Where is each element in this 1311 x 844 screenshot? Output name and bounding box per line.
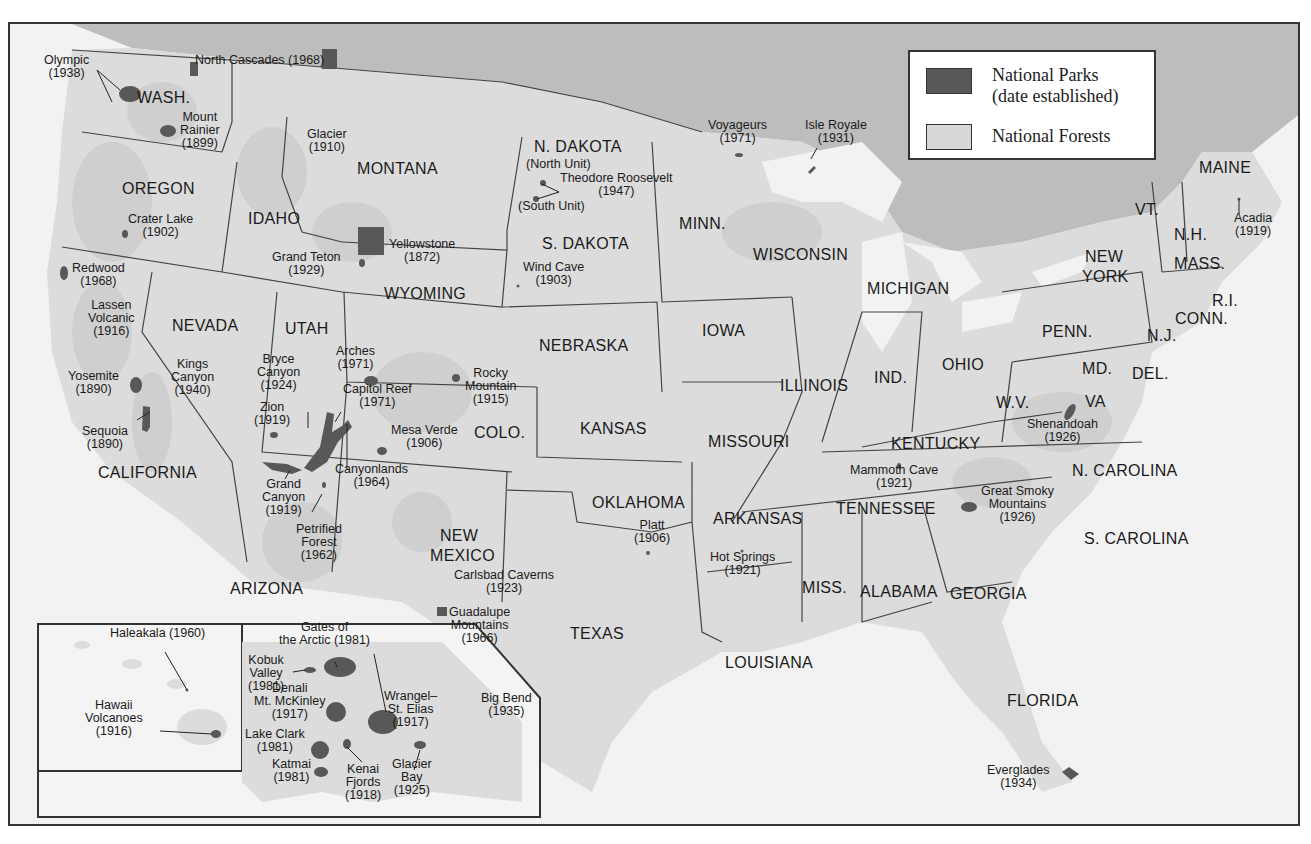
park-label: Arches(1971) (336, 345, 375, 371)
park-label: Theodore Roosevelt(1947) (560, 172, 673, 198)
state-label: VT. (1135, 202, 1159, 219)
state-label: OKLAHOMA (592, 495, 685, 512)
park-label: Katmai(1981) (272, 758, 311, 784)
state-label: S. CAROLINA (1084, 531, 1189, 548)
park-label: Yellowstone(1872) (389, 238, 455, 264)
state-label: MONTANA (357, 161, 438, 178)
state-label: MAINE (1199, 160, 1251, 177)
state-label: NEW (1085, 249, 1123, 266)
park-label: LassenVolcanic(1916) (88, 299, 135, 338)
map-frame: National Parks (date established) Nation… (8, 22, 1300, 826)
state-label: N. CAROLINA (1072, 463, 1178, 480)
state-label: NEVADA (172, 318, 238, 335)
park-label: Big Bend(1935) (481, 692, 532, 718)
park-label: Zion(1919) (254, 401, 290, 427)
park-label: Olympic(1938) (44, 54, 89, 80)
park-label: Mesa Verde(1906) (391, 424, 458, 450)
state-label: KENTUCKY (891, 436, 981, 453)
park-label: Redwood(1968) (72, 262, 125, 288)
park-label: Hot Springs(1921) (710, 551, 775, 577)
state-label: OHIO (942, 357, 984, 374)
state-label: MICHIGAN (867, 281, 949, 298)
state-label: LOUISIANA (725, 655, 813, 672)
park-label: Platt(1906) (634, 519, 670, 545)
state-label: COLO. (474, 425, 525, 442)
state-label: IOWA (702, 323, 745, 340)
state-label: YORK (1082, 269, 1129, 286)
park-label: Sequoia(1890) (82, 425, 128, 451)
park-label: PetrifiedForest(1962) (296, 523, 342, 562)
state-label: IND. (874, 370, 907, 387)
park-label: Wrangel–St. Elias(1917) (384, 690, 437, 729)
park-label: Grand Teton(1929) (272, 251, 341, 277)
park-label: Yosemite(1890) (68, 370, 119, 396)
park-label: Glacier(1910) (307, 128, 347, 154)
park-label: Acadia(1919) (1234, 212, 1272, 238)
park-denali (326, 702, 346, 722)
state-label: NEBRASKA (539, 338, 629, 355)
state-label: MISS. (802, 580, 847, 597)
state-label: WASH. (137, 90, 190, 107)
state-label: MASS. (1174, 256, 1225, 273)
state-label: ARKANSAS (713, 511, 803, 528)
park-label: (South Unit) (518, 200, 585, 213)
state-label: ILLINOIS (780, 378, 848, 395)
park-label: Capitol Reef(1971) (343, 383, 412, 409)
park-katmai (314, 767, 328, 777)
park-label: KingsCanyon(1940) (171, 358, 214, 397)
park-label: Great SmokyMountains(1926) (981, 485, 1054, 524)
park-label: BryceCanyon(1924) (257, 353, 300, 392)
state-label: DEL. (1132, 366, 1169, 383)
park-lake-clark (311, 741, 329, 759)
state-label: TENNESSEE (836, 501, 936, 518)
park-label: Lake Clark(1981) (245, 728, 305, 754)
park-label: Everglades(1934) (987, 764, 1050, 790)
state-label: MISSOURI (708, 434, 790, 451)
park-label: GuadalupeMountains(1966) (449, 606, 510, 645)
park-label: HawaiiVolcanoes(1916) (85, 699, 143, 738)
state-label: CONN. (1175, 311, 1228, 328)
park-label: KenaiFjords(1918) (345, 763, 381, 802)
state-label: VA (1085, 394, 1106, 411)
state-label: OREGON (122, 181, 195, 198)
state-label: KANSAS (580, 421, 647, 438)
state-label: GEORGIA (950, 586, 1027, 603)
park-label: Carlsbad Caverns(1923) (454, 569, 554, 595)
park-label: GrandCanyon(1919) (262, 478, 305, 517)
park-hawaii-volcanoes (211, 730, 221, 738)
state-label: ARIZONA (230, 581, 303, 598)
park-label: Canyonlands(1964) (335, 463, 408, 489)
park-label: RockyMountain(1915) (465, 367, 516, 406)
state-label: S. DAKOTA (542, 236, 629, 253)
park-label: North Cascades (1968) (195, 54, 324, 67)
park-label: Mammoth Cave(1921) (850, 464, 938, 490)
park-label: DenaliMt. McKinley(1917) (254, 682, 326, 721)
state-label: CALIFORNIA (98, 465, 197, 482)
park-label: Voyageurs(1971) (708, 119, 767, 145)
park-kobuk-valley (304, 667, 316, 673)
park-label: Wind Cave(1903) (523, 261, 584, 287)
state-label: N.J. (1147, 328, 1177, 345)
state-label: NEW (440, 528, 478, 545)
park-label: GlacierBay(1925) (392, 758, 432, 797)
state-label: WYOMING (384, 286, 466, 303)
state-label: ALABAMA (860, 584, 938, 601)
state-label: TEXAS (570, 626, 624, 643)
state-label: UTAH (285, 321, 329, 338)
park-label: Haleakala (1960) (110, 627, 205, 640)
state-label: FLORIDA (1007, 693, 1078, 710)
state-label: N. DAKOTA (534, 139, 622, 156)
state-label: WISCONSIN (753, 247, 848, 264)
state-label: MD. (1082, 361, 1112, 378)
state-label: MEXICO (430, 548, 495, 565)
park-label: Crater Lake(1902) (128, 213, 193, 239)
park-gates-of-the-arctic (324, 657, 356, 677)
hawaii-inset-border (38, 624, 242, 771)
state-label: IDAHO (248, 211, 300, 228)
park-label: MountRainier(1899) (180, 111, 220, 150)
state-label: W.V. (996, 395, 1030, 412)
park-label: Gates ofthe Arctic (1981) (279, 621, 370, 647)
state-label: MINN. (679, 216, 726, 233)
state-label: R.I. (1212, 293, 1238, 310)
state-label: PENN. (1042, 324, 1092, 341)
